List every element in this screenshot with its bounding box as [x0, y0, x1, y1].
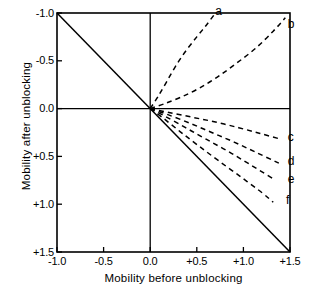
x-ticklabel: +1.0 — [221, 256, 265, 267]
x-ticklabel: +0.5 — [175, 256, 219, 267]
x-ticklabel: 0.0 — [128, 256, 172, 267]
curve-label-d: d — [288, 155, 295, 167]
y-axis-title: Mobility after unblocking — [20, 46, 32, 206]
y-ticklabel-text: 0.0 — [16, 103, 54, 114]
y-ticklabel: 0.0 — [12, 103, 54, 114]
curve-label-f: f — [286, 194, 289, 206]
y-ticklabel: -0.5 — [12, 55, 54, 66]
curve-f — [150, 109, 273, 203]
curve-d — [150, 109, 279, 163]
curve-a — [150, 13, 215, 109]
y-ticklabel-text: -0.5 — [16, 55, 54, 66]
chart-figure: Mobility after unblocking Mobility befor… — [0, 0, 309, 299]
x-ticklabel: -0.5 — [82, 256, 126, 267]
curve-label-a: a — [215, 5, 222, 17]
curve-label-b: b — [288, 18, 295, 30]
curve-b — [150, 18, 285, 109]
curve-label-e: e — [288, 173, 295, 185]
y-ticklabel: -1.0 — [12, 8, 54, 19]
y-ticklabel: +0.5 — [12, 151, 54, 162]
y-ticklabel-text: +0.5 — [16, 151, 54, 162]
y-ticklabel-text: +1.0 — [16, 199, 54, 210]
x-axis-title: Mobility before unblocking — [57, 272, 290, 284]
curve-e — [150, 109, 274, 180]
x-ticklabel: +1.5 — [268, 256, 309, 267]
curve-label-c: c — [288, 131, 294, 143]
y-ticklabel: +1.0 — [12, 199, 54, 210]
y-ticklabel-text: -1.0 — [16, 8, 54, 19]
x-ticklabel: -1.0 — [35, 256, 79, 267]
curve-c — [150, 109, 280, 140]
